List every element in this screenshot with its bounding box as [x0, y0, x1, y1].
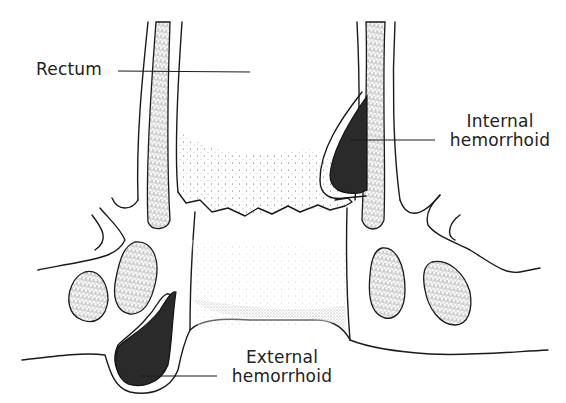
rectum-label: Rectum — [36, 60, 102, 79]
rectal-mucosa — [178, 130, 352, 216]
right-sphincter-outer — [424, 261, 471, 325]
left-perianal-tissue — [38, 208, 157, 322]
internal-hemorrhoid-label: Internal hemorrhoid — [444, 112, 556, 150]
external-hemorrhoid-label-line2: hemorrhoid — [222, 367, 342, 386]
internal-hemorrhoid-label-line1: Internal — [444, 112, 556, 131]
right-sphincter-inner — [369, 248, 405, 318]
rectum-leader-line — [118, 71, 250, 72]
anal-canal — [190, 208, 350, 340]
right-skin-line — [350, 340, 548, 355]
left-sphincter-outer — [69, 271, 108, 321]
internal-hemorrhoid-label-line2: hemorrhoid — [444, 131, 556, 150]
left-rectal-wall — [112, 22, 182, 229]
right-rectal-wall — [355, 22, 440, 229]
external-hemorrhoid-label-line1: External — [222, 348, 342, 367]
left-sphincter-inner — [115, 242, 157, 314]
right-perianal-tissue — [369, 195, 540, 325]
external-hemorrhoid-label: External hemorrhoid — [222, 348, 342, 386]
